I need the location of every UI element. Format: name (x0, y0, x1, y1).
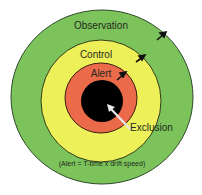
observation-label: Observation (74, 20, 128, 31)
formula-label: (Alert = T-time x drift speed) (59, 160, 145, 168)
exclusion-label: Exclusion (130, 122, 173, 133)
control-label: Control (80, 49, 112, 60)
zone-diagram: Observation Control Alert Exclusion (Ale… (0, 0, 202, 195)
alert-label: Alert (91, 68, 112, 79)
